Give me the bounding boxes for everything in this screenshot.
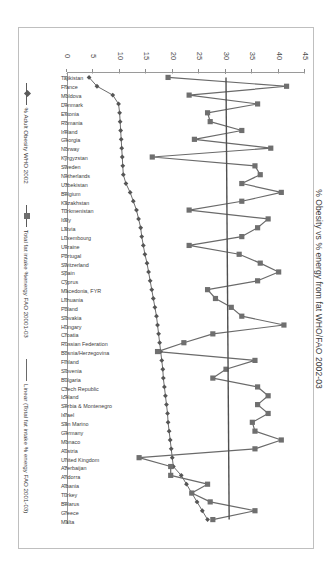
data-point-marker bbox=[110, 93, 115, 98]
data-point-marker bbox=[252, 446, 257, 451]
category-tick-mark bbox=[64, 395, 67, 396]
legend-item: % Adult Obesity WHO 2002 bbox=[23, 83, 31, 184]
gridline bbox=[172, 73, 173, 74]
data-point-marker bbox=[187, 243, 192, 248]
category-tick-mark bbox=[64, 236, 67, 237]
data-point-marker bbox=[258, 261, 263, 266]
category-label: Bosnia/Herzegovina bbox=[61, 350, 109, 356]
data-point-marker bbox=[284, 84, 289, 89]
data-point-marker bbox=[155, 323, 160, 328]
data-point-marker bbox=[258, 172, 263, 177]
category-tick-mark bbox=[64, 218, 67, 219]
category-tick-mark bbox=[64, 227, 67, 228]
data-point-marker bbox=[166, 420, 171, 425]
data-point-marker bbox=[276, 269, 281, 274]
data-point-marker bbox=[255, 225, 260, 230]
data-point-marker bbox=[170, 455, 175, 460]
category-tick-mark bbox=[64, 440, 67, 441]
category-tick-mark bbox=[64, 466, 67, 467]
y-tick-label: 35 bbox=[248, 45, 257, 67]
data-point-marker bbox=[164, 402, 169, 407]
category-label: Malta bbox=[61, 519, 74, 525]
legend-label: % Adult Obesity WHO 2002 bbox=[24, 108, 31, 184]
data-point-marker bbox=[145, 261, 150, 266]
data-point-marker bbox=[229, 305, 234, 310]
legend-item: Total fat intake %energy FAO 20001-03 bbox=[23, 205, 31, 338]
data-point-marker bbox=[168, 464, 173, 469]
data-point-marker bbox=[239, 181, 244, 186]
data-point-marker bbox=[239, 128, 244, 133]
data-point-marker bbox=[208, 119, 213, 124]
y-tick-label: 25 bbox=[195, 45, 204, 67]
category-tick-mark bbox=[64, 369, 67, 370]
data-point-marker bbox=[239, 234, 244, 239]
y-tick-label: 5 bbox=[89, 45, 98, 67]
data-point-marker bbox=[279, 190, 284, 195]
data-point-marker bbox=[252, 358, 257, 363]
y-tick-label: 20 bbox=[169, 45, 178, 67]
category-tick-mark bbox=[64, 475, 67, 476]
data-point-marker bbox=[266, 216, 271, 221]
category-tick-mark bbox=[64, 254, 67, 255]
data-point-marker bbox=[136, 217, 141, 222]
gridline bbox=[119, 73, 120, 74]
plain-line-key bbox=[23, 359, 31, 381]
y-tick-mark bbox=[225, 69, 226, 72]
data-point-marker bbox=[181, 340, 186, 345]
data-point-marker bbox=[266, 411, 271, 416]
category-tick-mark bbox=[64, 85, 67, 86]
category-label: Macedonia, FYR bbox=[61, 288, 101, 294]
category-tick-mark bbox=[64, 103, 67, 104]
data-point-marker bbox=[160, 367, 165, 372]
category-tick-mark bbox=[64, 484, 67, 485]
data-point-marker bbox=[205, 517, 210, 522]
data-point-marker bbox=[281, 322, 286, 327]
legend-label: Total fat intake %energy FAO 20001-03 bbox=[24, 230, 31, 338]
category-tick-mark bbox=[64, 138, 67, 139]
category-label: Serbia & Montenegro bbox=[61, 403, 112, 409]
data-point-marker bbox=[142, 252, 147, 257]
data-point-marker bbox=[134, 208, 139, 213]
category-tick-mark bbox=[64, 94, 67, 95]
data-point-marker bbox=[195, 499, 200, 504]
data-point-marker bbox=[205, 482, 210, 487]
category-tick-mark bbox=[64, 502, 67, 503]
data-point-marker bbox=[131, 199, 136, 204]
gridline bbox=[145, 73, 146, 74]
y-tick-mark bbox=[198, 69, 199, 72]
legend-item: Linear (Total fat intake % energy FAO 20… bbox=[23, 359, 31, 513]
y-tick-label: 30 bbox=[222, 45, 231, 67]
gridline bbox=[251, 73, 252, 74]
data-point-marker bbox=[156, 331, 161, 336]
data-point-marker bbox=[192, 137, 197, 142]
data-point-marker bbox=[155, 349, 160, 354]
category-tick-mark bbox=[64, 263, 67, 264]
category-tick-mark bbox=[64, 325, 67, 326]
y-tick-mark bbox=[66, 69, 67, 72]
category-label: Russian Federation bbox=[61, 341, 108, 347]
category-tick-mark bbox=[64, 316, 67, 317]
category-tick-mark bbox=[64, 431, 67, 432]
data-point-marker bbox=[255, 402, 260, 407]
y-tick-label: 0 bbox=[63, 45, 72, 67]
data-point-marker bbox=[128, 190, 133, 195]
category-tick-mark bbox=[64, 307, 67, 308]
data-point-marker bbox=[255, 384, 260, 389]
y-tick-mark bbox=[251, 69, 252, 72]
data-point-marker bbox=[118, 119, 123, 124]
series-line bbox=[139, 77, 286, 519]
category-tick-mark bbox=[64, 458, 67, 459]
data-point-marker bbox=[169, 446, 174, 451]
data-point-marker bbox=[157, 340, 162, 345]
category-tick-mark bbox=[64, 271, 67, 272]
data-point-marker bbox=[165, 411, 170, 416]
data-point-marker bbox=[121, 172, 126, 177]
y-tick-label: 15 bbox=[142, 45, 151, 67]
gridline bbox=[225, 73, 226, 74]
category-tick-mark bbox=[64, 112, 67, 113]
data-point-marker bbox=[161, 376, 166, 381]
category-tick-mark bbox=[64, 156, 67, 157]
data-point-marker bbox=[210, 331, 215, 336]
data-point-marker bbox=[168, 438, 173, 443]
data-point-marker bbox=[184, 482, 189, 487]
